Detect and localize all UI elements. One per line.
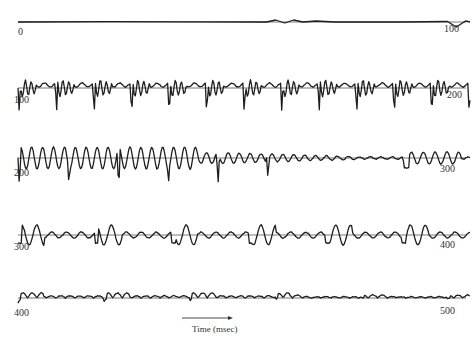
waveform-plot [0,0,474,348]
waveform-figure: 0 100 100 200 200 300 300 400 400 500 Ti… [0,0,474,348]
row-4-end-label: 400 [440,240,455,250]
row-1-start-label: 0 [18,27,23,37]
row-4-start-label: 300 [14,242,29,252]
row-5-end-label: 500 [440,306,455,316]
row-2-start-label: 100 [14,95,29,105]
row-1-waveform [18,20,470,27]
x-axis-title: Time (msec) [192,324,237,334]
row-2-waveform [18,80,470,110]
row-3-waveform [18,147,470,182]
row-5-start-label: 400 [14,308,29,318]
row-3-end-label: 300 [440,164,455,174]
row-3-start-label: 200 [14,168,29,178]
trace-group [18,20,470,303]
time-arrow-icon [182,316,233,320]
row-1-end-label: 100 [444,24,459,34]
row-2-end-label: 200 [447,90,462,100]
